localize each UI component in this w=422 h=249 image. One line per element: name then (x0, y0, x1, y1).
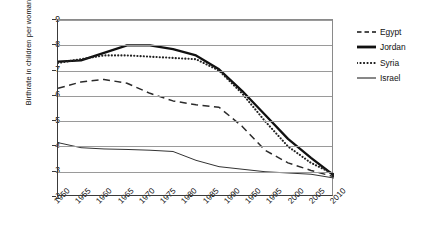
y-axis-tick-mark (52, 19, 56, 20)
y-axis-tick-mark (52, 44, 56, 45)
series-line-egypt (58, 79, 334, 176)
y-axis-tick-mark (52, 95, 56, 96)
gridline (58, 71, 332, 72)
legend-item-egypt[interactable]: Egypt (357, 24, 422, 40)
legend-label: Egypt (380, 27, 401, 37)
gridline (58, 121, 332, 122)
series-line-syria (58, 55, 334, 174)
y-axis-tick-mark (52, 145, 56, 146)
chart-figure: Birthrate in children per woman 23456789… (0, 0, 422, 249)
legend-swatch-egypt (357, 27, 376, 37)
legend-item-israel[interactable]: Israel (357, 71, 422, 87)
gridline (58, 20, 332, 21)
legend-swatch-syria (357, 58, 376, 68)
y-axis-title: Birthrate in children per woman (24, 0, 33, 143)
y-axis-tick-mark (52, 120, 56, 121)
gridline (58, 45, 332, 46)
legend-label: Jordan (380, 42, 406, 52)
y-axis-tick-mark (52, 171, 56, 172)
legend-item-jordan[interactable]: Jordan (357, 40, 422, 56)
plot-area (57, 19, 333, 196)
series-lines (58, 20, 334, 197)
legend-swatch-israel (357, 73, 376, 83)
gridline (58, 172, 332, 173)
series-line-israel (58, 143, 334, 178)
legend-item-syria[interactable]: Syria (357, 55, 422, 71)
series-line-jordan (58, 45, 334, 175)
gridline (58, 146, 332, 147)
chart-legend: EgyptJordanSyriaIsrael (357, 24, 422, 86)
legend-label: Syria (380, 58, 399, 68)
gridline (58, 96, 332, 97)
legend-label: Israel (380, 73, 400, 83)
legend-swatch-jordan (357, 42, 376, 52)
y-axis-tick-mark (52, 70, 56, 71)
